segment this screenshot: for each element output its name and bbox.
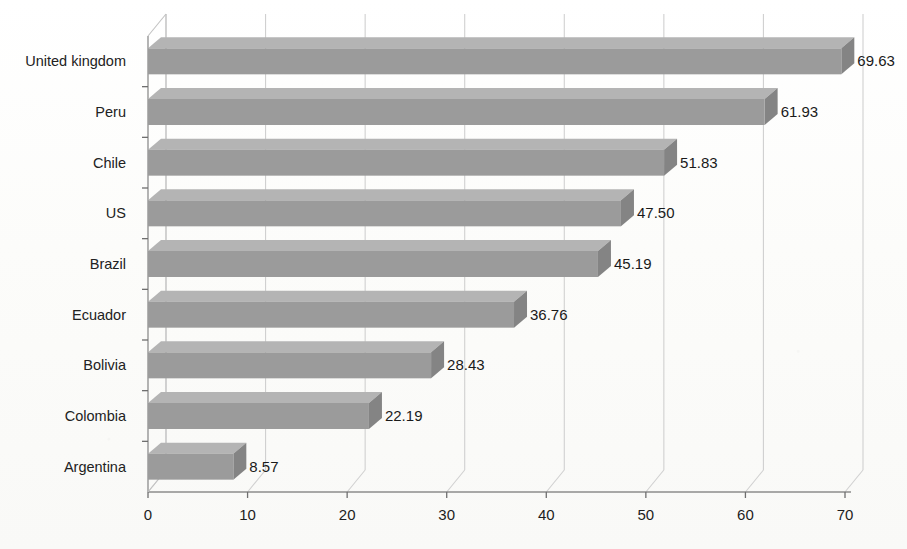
bar-value-label: 69.63 [857,52,895,69]
category-axis-label: Argentina [64,459,127,475]
bar-chart-3d: ArgentinaColombiaBoliviaEcuadorBrazilUSC… [0,0,907,549]
category-axis-label: Colombia [65,408,127,424]
bar-top-face [148,88,778,99]
gridline-riser [347,470,365,492]
bar-front-face [148,251,598,277]
y-axis-top-depth-connector [148,14,166,36]
bar-front-face [148,352,431,378]
category-labels: ArgentinaColombiaBoliviaEcuadorBrazilUSC… [25,53,127,474]
x-tick-label: 0 [144,506,152,523]
bar-front-face [148,454,233,480]
bar-value-label: 22.19 [385,407,423,424]
bar-front-face [148,150,664,176]
x-tick-label: 30 [438,506,455,523]
gridline-riser [447,470,465,492]
bar-top-face [148,291,527,302]
gridline-riser [546,470,564,492]
bar-value-label: 45.19 [614,255,652,272]
bar-value-label: 36.76 [530,306,568,323]
category-axis-label: Bolivia [83,357,127,373]
bar-front-face [148,48,841,74]
x-tick-label: 20 [339,506,356,523]
bars [148,37,854,479]
category-axis-label: US [106,205,126,221]
bar-top-face [148,341,444,352]
x-axis-tick-labels: 010203040506070 [144,506,854,523]
chart-canvas: ArgentinaColombiaBoliviaEcuadorBrazilUSC… [0,0,907,549]
category-axis-label: Peru [95,104,126,120]
bar-front-face [148,302,514,328]
bar-top-face [148,443,246,454]
bar-value-label: 61.93 [781,103,819,120]
gridline-riser [646,470,664,492]
bar-front-face [148,200,621,226]
x-tick-label: 10 [239,506,256,523]
category-axis-label: Chile [93,155,126,171]
gridline-riser [845,470,863,492]
x-tick-label: 60 [737,506,754,523]
category-axis-label: Brazil [90,256,126,272]
bar-top-face [148,392,382,403]
bar-top-face [148,37,854,48]
bar-top-face [148,240,611,251]
bar-front-face [148,403,369,429]
x-tick-label: 70 [837,506,854,523]
bar-value-label: 8.57 [249,458,278,475]
bar-front-face [148,99,765,125]
x-tick-label: 40 [538,506,555,523]
category-axis-label: Ecuador [72,307,126,323]
bar-top-face [148,139,677,150]
x-tick-label: 50 [638,506,655,523]
category-axis-label: United kingdom [25,53,126,69]
bar-top-face [148,189,634,200]
bar-value-label: 47.50 [637,204,675,221]
bar-value-label: 28.43 [447,356,485,373]
bar-value-label: 51.83 [680,154,718,171]
gridline-riser [745,470,763,492]
